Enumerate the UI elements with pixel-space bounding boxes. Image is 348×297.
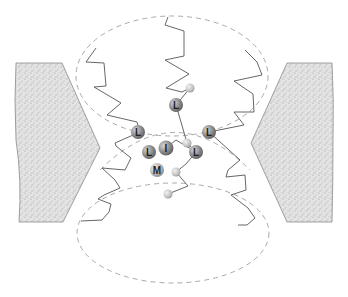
residue-leucine-left: L: [131, 125, 145, 139]
residue-label: L: [135, 127, 141, 138]
residue-leucine-right: L: [202, 125, 216, 139]
residue-label: L: [193, 147, 199, 158]
residue-leucine-inner-right: L: [189, 145, 203, 159]
channel-diagram: L L L L I L M: [0, 0, 348, 297]
residue-leucine-top: L: [169, 98, 183, 112]
residue-label: L: [206, 127, 212, 138]
membrane-block-left: [15, 63, 100, 222]
residue-isoleucine: I: [159, 141, 174, 156]
atom-bottom: [164, 190, 173, 199]
labeled-residues: L L L L I L M: [131, 98, 216, 177]
membrane-block-right: [251, 63, 333, 222]
residue-methionine: M: [150, 163, 164, 177]
atom-top: [186, 84, 195, 93]
residue-leucine-inner-left: L: [142, 145, 156, 159]
lower-vestibule-outline: [77, 183, 269, 283]
residue-label: M: [153, 165, 161, 176]
residue-label: L: [173, 100, 179, 111]
atom-lower: [172, 168, 181, 177]
residue-label: I: [165, 143, 168, 154]
residue-label: L: [146, 147, 152, 158]
atom-center: [183, 139, 192, 148]
